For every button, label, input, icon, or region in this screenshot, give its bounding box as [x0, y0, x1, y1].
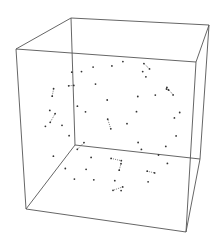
polyhedron-vertex [85, 168, 87, 170]
polyhedron-vertex [137, 96, 139, 98]
polyhedron-vertex [118, 169, 120, 171]
polyhedron-vertex [49, 110, 51, 112]
polyhedron-vertex [172, 94, 174, 96]
polyhedron-vertex [126, 123, 128, 125]
polyhedron-vertex [120, 163, 122, 165]
polyhedron-vertex [53, 155, 55, 157]
polyhedron-vertex [145, 76, 147, 78]
polyhedron-vertex [142, 71, 144, 73]
polyhedron-vertex [120, 160, 122, 162]
polyhedron-vertex [107, 118, 109, 120]
box-edge [71, 18, 209, 25]
polyhedron-vertex [64, 168, 66, 170]
polyhedron-vertex [53, 88, 55, 90]
bounding-box [16, 18, 209, 232]
polyhedron-vertex [166, 88, 168, 90]
polyhedron-vertex [49, 121, 51, 123]
box-edge [75, 145, 200, 159]
polyhedron-vertex [90, 157, 92, 159]
polyhedron-vertex [154, 94, 156, 96]
polyhedron-vertex [165, 146, 167, 148]
polyhedron-vertex [85, 111, 87, 113]
polyhedron-vertex [71, 71, 73, 73]
polyhedron-vertex [166, 86, 168, 88]
polyhedron-vertex [93, 179, 95, 181]
polyhedron-vertex [143, 63, 145, 65]
polyhedron-vertex [68, 135, 70, 137]
polyhedron-vertex [179, 112, 181, 114]
polyhedron-vertex [51, 95, 53, 97]
polyhedron-vertex [92, 66, 94, 68]
box-edge [16, 18, 71, 49]
polyhedron-edges [50, 64, 173, 191]
box-edge [200, 25, 209, 159]
polyhedron-vertex [83, 142, 85, 144]
polyhedron-vertex [167, 163, 169, 165]
polyhedron-vertex [154, 172, 156, 174]
polyhedron-vertex [74, 178, 76, 180]
polyhedron-vertex [146, 170, 148, 172]
polyhedron-vertex [141, 149, 143, 151]
polyhedron-vertex [73, 85, 75, 87]
polyhedron-vertex [106, 99, 108, 101]
polyhedron-edge [50, 114, 55, 123]
polyhedron-edge [108, 119, 111, 129]
polyhedron-edge [111, 158, 121, 160]
polyhedron-vertex [136, 111, 138, 113]
box-edge [16, 49, 196, 62]
polyhedron-vertex [95, 83, 97, 85]
polyhedron-vertex [175, 135, 177, 137]
polyhedron-vertex [68, 85, 70, 87]
polyhedron-vertex [112, 189, 114, 191]
polyhedron-vertex [61, 124, 63, 126]
polyhedron-edge [167, 87, 173, 95]
polyhedron-vertex [147, 181, 149, 183]
polyhedron-vertex [110, 158, 112, 160]
polyhedron-figure [0, 0, 221, 245]
polyhedron-vertex [45, 125, 47, 127]
polyhedron-vertex [120, 190, 122, 192]
polyhedron-vertex [174, 117, 176, 119]
box-edge [26, 209, 186, 232]
box-edge [71, 18, 75, 145]
polyhedron-vertex [168, 89, 170, 91]
polyhedron-vertex [122, 186, 124, 188]
polyhedron-edge [52, 89, 53, 97]
polyhedron-vertex [77, 105, 79, 107]
polyhedron-edge [119, 164, 121, 171]
polyhedron-edge [147, 171, 154, 173]
box-edge [26, 145, 75, 209]
polyhedron-vertex [149, 68, 151, 70]
polyhedron-vertex [76, 148, 78, 150]
polyhedron-vertex [158, 154, 160, 156]
polyhedron-vertex [81, 71, 83, 73]
polyhedron-vertex [54, 113, 56, 115]
polyhedron-vertex [114, 180, 116, 182]
polyhedron-vertex [137, 142, 139, 144]
polyhedron-vertex [111, 65, 113, 67]
box-edge [16, 49, 26, 209]
polyhedron-vertices [45, 61, 181, 192]
polyhedron-vertex [122, 61, 124, 63]
polyhedron-vertex [110, 128, 112, 130]
polyhedron-edge [144, 64, 150, 69]
